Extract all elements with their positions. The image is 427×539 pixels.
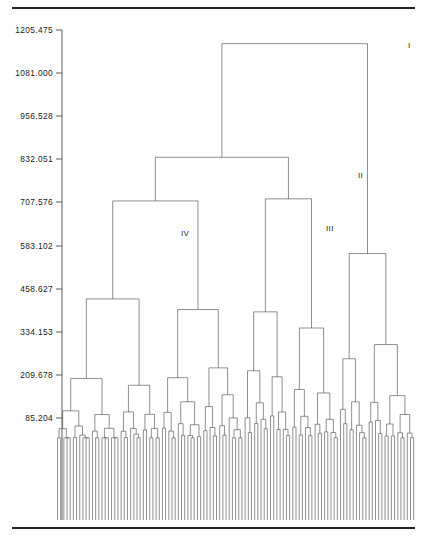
y-axis-label-5: 583.102 (20, 241, 53, 251)
y-axis-label-8: 209.678 (20, 370, 53, 380)
cluster-label-II: II (358, 171, 363, 180)
dendrogram-canvas: 1205.4751081.000956.528832.051707.576583… (0, 0, 427, 539)
cluster-label-III: III (326, 224, 334, 233)
dendrogram-figure: 1205.4751081.000956.528832.051707.576583… (0, 0, 427, 539)
y-axis-label-0: 1205.475 (15, 25, 53, 35)
cluster-label-I: I (408, 41, 411, 50)
y-axis-label-6: 458.627 (20, 284, 53, 294)
y-axis-label-9: 85.204 (25, 413, 53, 423)
y-axis-label-1: 1081.000 (15, 68, 53, 78)
y-axis-label-7: 334.153 (20, 327, 53, 337)
y-axis-label-2: 956.528 (20, 111, 53, 121)
cluster-label-IV: IV (181, 229, 190, 238)
y-axis-label-4: 707.576 (20, 197, 53, 207)
y-axis-label-3: 832.051 (20, 154, 53, 164)
